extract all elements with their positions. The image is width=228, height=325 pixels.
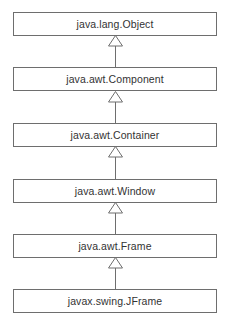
class-box-frame: java.awt.Frame <box>13 234 217 258</box>
class-name: java.awt.Frame <box>78 240 151 252</box>
class-box-object: java.lang.Object <box>13 12 217 36</box>
hollow-triangle-arrow-icon <box>109 36 123 47</box>
hollow-triangle-arrow-icon <box>109 147 123 158</box>
inheritance-diagram: java.lang.Object java.awt.Component java… <box>0 0 228 325</box>
class-name: javax.swing.JFrame <box>68 295 163 307</box>
inheritance-arrows <box>0 0 228 325</box>
hollow-triangle-arrow-icon <box>109 92 123 103</box>
class-box-container: java.awt.Container <box>13 123 217 147</box>
class-name: java.awt.Component <box>66 73 164 85</box>
hollow-triangle-arrow-icon <box>109 203 123 214</box>
class-box-jframe: javax.swing.JFrame <box>13 289 217 313</box>
class-box-component: java.awt.Component <box>13 67 217 91</box>
class-name: java.awt.Container <box>71 129 160 141</box>
class-box-window: java.awt.Window <box>13 179 217 203</box>
class-name: java.lang.Object <box>77 18 154 30</box>
class-name: java.awt.Window <box>75 185 155 197</box>
hollow-triangle-arrow-icon <box>109 258 123 269</box>
